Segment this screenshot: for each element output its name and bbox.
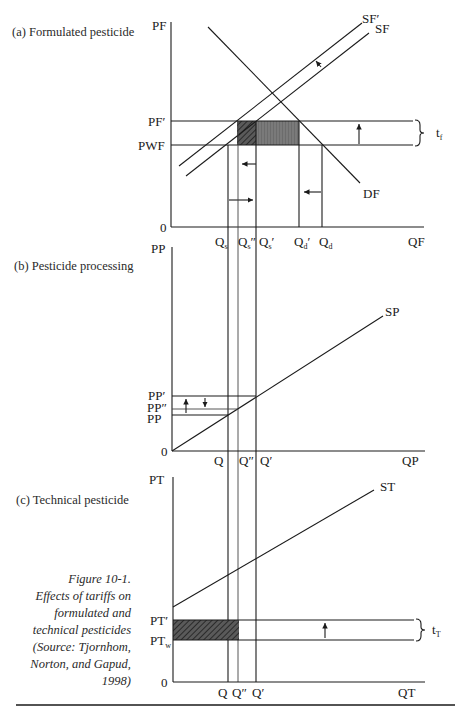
tariff-label-tt: tT (432, 622, 441, 639)
linking-quantity-lines (228, 121, 256, 682)
price-label-pp: PP (147, 411, 161, 426)
axis-label-qt: QT (398, 685, 415, 700)
shaded-area-hatched-technical (173, 620, 239, 640)
supply-curve-sp (172, 316, 383, 451)
caption-line: 1998) (102, 674, 131, 688)
curve-label-sp: SP (385, 304, 399, 319)
curve-label-st: ST (380, 479, 395, 494)
shaded-area-gray (256, 121, 299, 145)
axis-label-qf: QF (408, 234, 425, 249)
figure-caption: Figure 10-1. Effects of tariffs on formu… (29, 572, 131, 688)
price-label-pf-prime: PF′ (148, 114, 165, 129)
origin-a: 0 (160, 220, 167, 235)
axis-label-qp: QP (402, 453, 419, 468)
q-label-qs-prime: Qs′ (259, 234, 275, 251)
curve-label-sf: SF (375, 21, 389, 36)
caption-line: Norton, and Gapud, (29, 657, 131, 671)
price-label-pt-prime: PT′ (150, 613, 168, 628)
supply-curve-st (173, 490, 374, 607)
caption-line: formulated and (54, 606, 131, 620)
price-label-pwf: PWF (138, 138, 165, 153)
panel-b-title: (b) Pesticide processing (14, 259, 134, 273)
brace-icon (415, 120, 424, 146)
panel-a-formulated-pesticide: (a) Formulated pesticide PF 0 QF PF′ PWF… (12, 11, 443, 251)
panel-b-pesticide-processing: (b) Pesticide processing PP 0 QP SP PP′ … (14, 241, 425, 468)
demand-curve-df (208, 27, 360, 183)
axis-label-pt: PT (149, 472, 164, 487)
axis-label-pp: PP (151, 241, 165, 256)
caption-line: Effects of tariffs on (35, 589, 131, 603)
supply-shift-arrow-icon (316, 61, 321, 67)
q-label-qs: Qs (215, 234, 228, 251)
origin-c: 0 (161, 675, 168, 690)
panel-c-title: (c) Technical pesticide (16, 493, 129, 507)
caption-line: Figure 10-1. (67, 572, 131, 586)
shaded-area-hatched (237, 121, 256, 145)
tariff-diagram: (a) Formulated pesticide PF 0 QF PF′ PWF… (0, 0, 462, 713)
q-label-q-prime: Q′ (260, 453, 272, 468)
q-label-q: Q (218, 685, 228, 700)
q-label-q-double-prime: Q″ (232, 685, 247, 700)
brace-icon (416, 619, 425, 641)
q-label-qs-double-prime: Qs″ (238, 234, 256, 251)
q-label-qd: Qd (319, 234, 332, 251)
origin-b: 0 (161, 444, 168, 459)
curve-label-df: DF (363, 186, 380, 201)
q-label-q: Q (214, 453, 224, 468)
q-label-q-double-prime: Q″ (239, 453, 254, 468)
tariff-label-tf: tf (436, 125, 443, 142)
supply-curve-sf (186, 33, 369, 176)
caption-line: (Source: Tjornhom, (33, 640, 131, 654)
price-label-ptw: PTw (150, 633, 171, 650)
q-label-qd-prime: Qd′ (294, 234, 310, 251)
caption-line: technical pesticides (33, 623, 131, 637)
panel-a-title: (a) Formulated pesticide (12, 25, 135, 39)
q-label-q-prime: Q′ (252, 685, 264, 700)
axis-label-pf: PF (152, 18, 166, 33)
